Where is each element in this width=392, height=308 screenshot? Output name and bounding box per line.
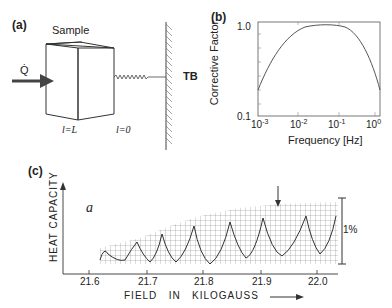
field-axis-label: FIELD IN KILOGAUSS xyxy=(124,290,259,301)
corrective-factor-curve xyxy=(258,25,380,90)
y-axis-label: Corrective Factor xyxy=(208,8,220,118)
field-tick-21.8: 21.8 xyxy=(194,276,213,287)
y-tick-1: 1.0 xyxy=(237,21,251,32)
field-tick-22.0: 22.0 xyxy=(308,276,327,287)
field-axis-arrow xyxy=(268,292,308,302)
x-tick-2: 10-1 xyxy=(328,118,345,130)
heat-capacity-axis-label: HEAT CAPACITY xyxy=(48,152,59,262)
field-tick-21.9: 21.9 xyxy=(252,276,271,287)
x-axis-label: Frequency [Hz] xyxy=(288,134,363,146)
x-tick-1: 10-2 xyxy=(290,118,307,130)
y-tick-0.1: 0.1 xyxy=(237,111,251,122)
x-tick-0: 10-3 xyxy=(251,118,268,130)
x-tick-3: 100 xyxy=(366,118,381,130)
marker-letter: a xyxy=(86,200,93,216)
scale-bar-label: 1% xyxy=(343,224,357,235)
field-tick-21.7: 21.7 xyxy=(138,276,157,287)
field-tick-21.6: 21.6 xyxy=(80,276,99,287)
